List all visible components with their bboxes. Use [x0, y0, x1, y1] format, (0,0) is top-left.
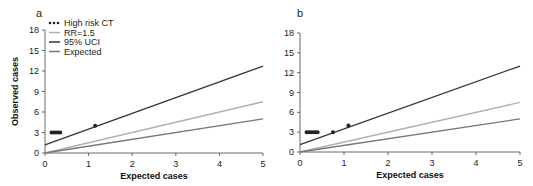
line-rr-1-5 — [300, 102, 520, 152]
legend-label: High risk CT — [64, 18, 114, 28]
data-point — [316, 130, 320, 134]
chart-panel-b: b0123450369121518Expected cases — [284, 7, 523, 180]
legend: High risk CTRR=1.595% UCIExpected — [49, 18, 114, 57]
y-tick-label: 6 — [289, 107, 294, 117]
data-point — [346, 124, 350, 128]
panel-label: b — [297, 7, 303, 19]
y-tick-label: 18 — [29, 25, 39, 35]
x-tick-label: 0 — [42, 159, 47, 169]
data-point — [331, 130, 335, 134]
chart-figure: a0123450369121518Expected casesObserved … — [0, 0, 533, 186]
x-tick-label: 5 — [517, 158, 522, 168]
data-point — [58, 131, 62, 135]
line-95-uci — [45, 66, 263, 145]
y-tick-label: 3 — [34, 128, 39, 138]
data-point — [93, 124, 97, 128]
legend-label: 95% UCI — [64, 37, 100, 47]
line-expected — [45, 119, 263, 153]
y-tick-label: 9 — [34, 87, 39, 97]
y-tick-label: 12 — [29, 66, 39, 76]
x-tick-label: 4 — [217, 159, 222, 169]
y-tick-label: 15 — [29, 46, 39, 56]
x-tick-label: 2 — [130, 159, 135, 169]
x-tick-label: 1 — [341, 158, 346, 168]
x-tick-label: 0 — [297, 158, 302, 168]
y-tick-label: 3 — [289, 127, 294, 137]
panel-label: a — [36, 7, 43, 19]
y-tick-label: 0 — [289, 147, 294, 157]
x-axis-label: Expected cases — [376, 170, 444, 180]
y-tick-label: 0 — [34, 148, 39, 158]
x-axis-label: Expected cases — [120, 171, 188, 181]
line-expected — [300, 119, 520, 152]
x-tick-label: 1 — [86, 159, 91, 169]
x-tick-label: 3 — [429, 158, 434, 168]
y-tick-label: 12 — [284, 68, 294, 78]
legend-label: Expected — [64, 47, 102, 57]
y-tick-label: 15 — [284, 48, 294, 58]
line-rr-1-5 — [45, 102, 263, 153]
y-tick-label: 18 — [284, 28, 294, 38]
y-tick-label: 9 — [289, 88, 294, 98]
x-tick-label: 3 — [173, 159, 178, 169]
x-tick-label: 5 — [260, 159, 265, 169]
chart-panel-a: a0123450369121518Expected casesObserved … — [10, 7, 266, 181]
x-tick-label: 2 — [385, 158, 390, 168]
y-axis-label: Observed cases — [10, 57, 20, 126]
x-tick-label: 4 — [473, 158, 478, 168]
y-tick-label: 6 — [34, 107, 39, 117]
legend-label: RR=1.5 — [64, 28, 95, 38]
